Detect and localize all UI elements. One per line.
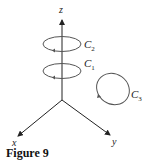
y-axis-label: y	[111, 136, 117, 147]
y-axis	[62, 100, 110, 135]
figure-caption: Figure 9	[6, 146, 49, 161]
diagram-canvas: z x y C2 C1 C3	[0, 0, 149, 163]
curve-c3	[90, 67, 135, 111]
x-axis	[18, 100, 62, 136]
c2-direction-arrow-icon	[52, 49, 55, 53]
c3-label: C3	[131, 88, 142, 103]
c1-direction-arrow-icon	[52, 76, 55, 80]
c2-label: C2	[84, 38, 95, 53]
z-axis-label: z	[58, 4, 63, 15]
c1-label: C1	[84, 57, 95, 72]
